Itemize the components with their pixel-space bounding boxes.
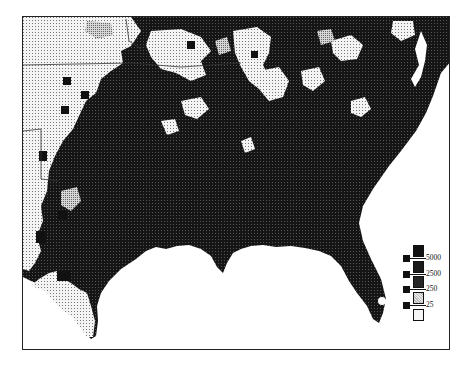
legend-swatch-2500 (413, 261, 424, 273)
lake-okeechobee (378, 297, 386, 305)
legend-label-250: 250 (426, 285, 437, 293)
legend-marker-icon (403, 302, 410, 309)
legend-line (410, 274, 426, 275)
legend-label-25: 25 (426, 301, 434, 309)
legend-swatch-top (413, 245, 424, 257)
legend-marker-icon (403, 286, 410, 293)
legend-label-5000: 5000 (426, 254, 441, 262)
legend-marker-icon (403, 271, 410, 278)
legend-line (410, 305, 426, 306)
legend-line (410, 258, 426, 259)
map-frame (22, 16, 450, 350)
legend-swatch-0 (413, 309, 424, 321)
legend-swatch-250 (413, 276, 424, 288)
legend-marker-icon (403, 255, 410, 262)
legend-line (410, 289, 426, 290)
legend: 5000 2500 250 25 (398, 242, 448, 327)
choropleth-map (23, 17, 450, 350)
legend-swatch-25 (413, 292, 424, 304)
legend-label-2500: 2500 (426, 270, 441, 278)
